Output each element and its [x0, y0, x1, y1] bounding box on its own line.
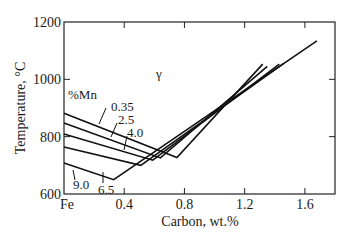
y-tick-label: 600 — [40, 187, 61, 202]
series-label: 4.0 — [127, 125, 143, 140]
series-line-mn-9-0 — [64, 41, 317, 180]
x-axis-label: Carbon, wt.% — [161, 214, 239, 229]
y-tick-label: 1200 — [33, 15, 61, 30]
x-tick-label: Fe — [60, 197, 74, 212]
series-line-mn-4-0 — [64, 64, 279, 160]
x-tick-label: 0.4 — [115, 197, 133, 212]
legend-title: %Mn — [68, 87, 97, 102]
x-tick-label: 1.2 — [236, 197, 254, 212]
gamma-region-label: γ — [155, 66, 162, 81]
phase-diagram-chart: Fe0.40.81.21.660080010001200 0.352.54.06… — [0, 0, 356, 240]
plot-frame — [64, 22, 335, 194]
y-tick-label: 1000 — [33, 72, 61, 87]
series-label: 6.5 — [98, 182, 114, 197]
series-label: 9.0 — [73, 177, 89, 192]
y-tick-label: 800 — [40, 130, 61, 145]
data-series — [64, 41, 317, 180]
series-line-mn-6-5 — [64, 63, 284, 165]
x-tick-label: 1.6 — [296, 197, 314, 212]
y-axis-label: Temperature, °C — [13, 62, 28, 154]
x-tick-label: 0.8 — [176, 197, 194, 212]
